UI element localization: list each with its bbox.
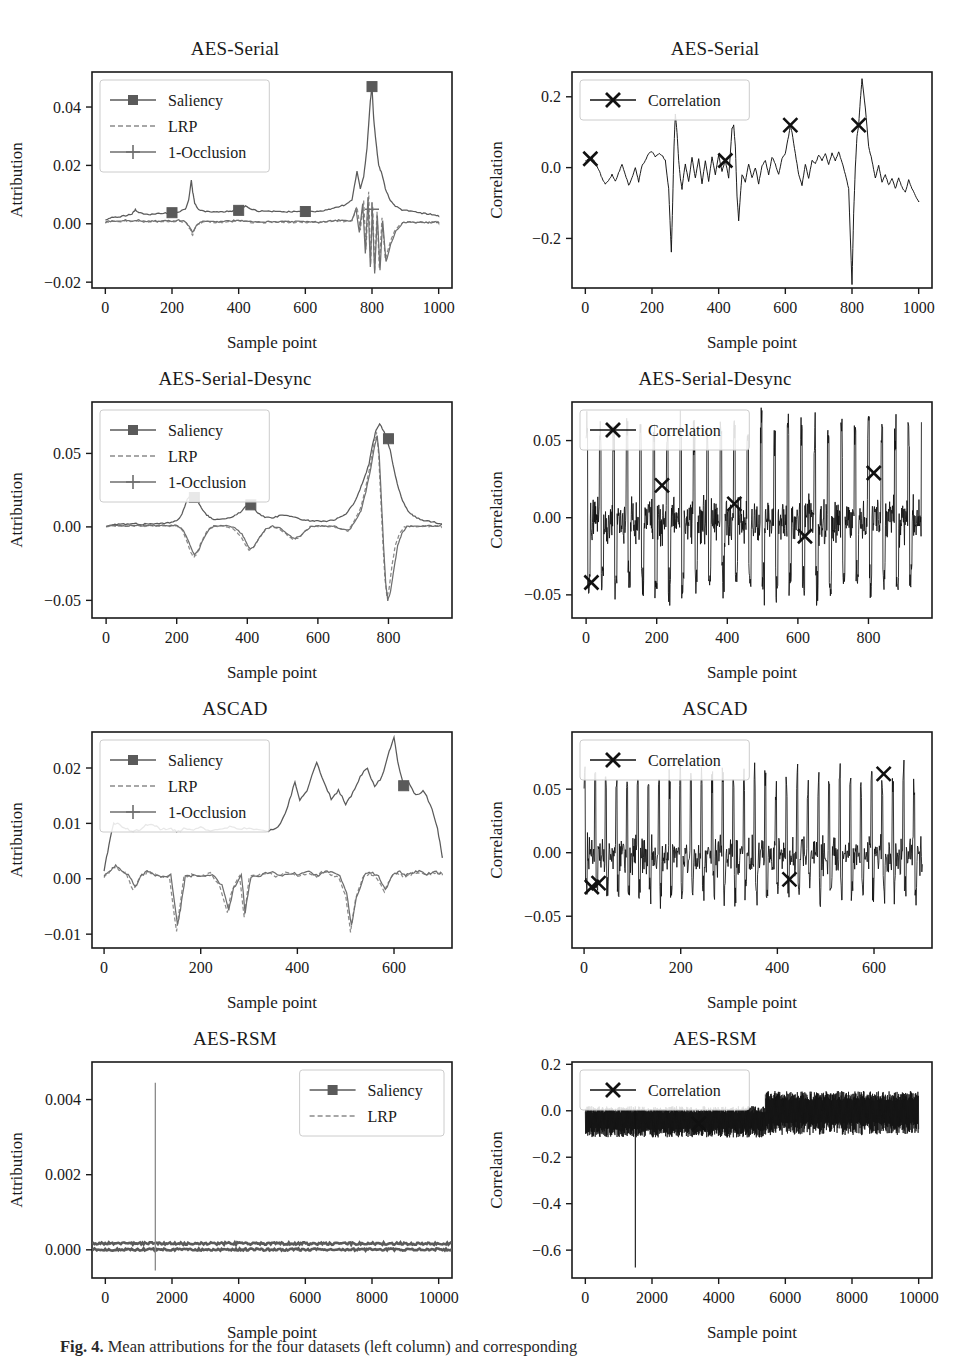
y-tick-label: −0.2 [532, 1149, 561, 1166]
caption-text: Mean attributions for the four datasets … [108, 1337, 578, 1356]
marker-square [167, 208, 177, 218]
x-tick-label: 10000 [899, 1289, 939, 1306]
legend-label: LRP [168, 448, 197, 465]
caption-label: Fig. 4. [60, 1337, 104, 1356]
legend-label: Correlation [648, 1082, 721, 1099]
y-axis-label: Correlation [487, 471, 506, 549]
x-tick-label: 8000 [356, 1289, 388, 1306]
x-tick-label: 800 [360, 299, 384, 316]
panel-title: ASCAD [480, 698, 950, 720]
x-tick-label: 0 [582, 629, 590, 646]
y-axis-label: Correlation [487, 801, 506, 879]
y-tick-label: −0.2 [532, 230, 561, 247]
legend-label: Saliency [368, 1082, 423, 1100]
y-tick-label: −0.4 [532, 1195, 561, 1212]
y-tick-label: −0.05 [524, 908, 561, 925]
x-tick-label: 400 [235, 629, 259, 646]
x-axis-label: Sample point [707, 663, 797, 682]
x-axis-label: Sample point [227, 663, 317, 682]
x-tick-label: 0 [581, 1289, 589, 1306]
panel-title: AES-Serial-Desync [480, 368, 950, 390]
panel-title: AES-RSM [0, 1028, 470, 1050]
legend: Correlation [580, 80, 749, 120]
marker-square [399, 781, 409, 791]
legend-label: LRP [368, 1108, 397, 1125]
x-tick-label: 8000 [836, 1289, 868, 1306]
panel-title: AES-Serial-Desync [0, 368, 470, 390]
legend: SaliencyLRP1-Occlusion [100, 740, 269, 832]
panel-title: AES-Serial [480, 38, 950, 60]
legend-label: LRP [168, 778, 197, 795]
plot-svg: 0200400600800−0.050.000.05Sample pointCo… [480, 362, 950, 692]
legend: SaliencyLRP1-Occlusion [100, 80, 269, 172]
figure-caption: Fig. 4. Mean attributions for the four d… [60, 1336, 894, 1364]
y-tick-label: 0.00 [53, 518, 81, 535]
x-tick-label: 400 [765, 959, 789, 976]
x-tick-label: 0 [101, 1289, 109, 1306]
plot-grid: AES-Serial02004006008001000−0.020.000.02… [0, 0, 953, 1352]
series-saliency-lower [92, 1248, 452, 1250]
plot-svg: 02004006008001000−0.020.000.020.04Sample… [0, 32, 470, 362]
legend: Correlation [580, 740, 749, 780]
marker-square [383, 434, 393, 444]
y-tick-label: 0.0 [541, 1102, 561, 1119]
plot-panel-aes-rsm-correlation: AES-RSM0200040006000800010000−0.6−0.4−0.… [480, 1022, 950, 1352]
y-tick-label: 0.2 [541, 1056, 561, 1073]
x-tick-label: 800 [840, 299, 864, 316]
x-axis-label: Sample point [227, 333, 317, 352]
x-tick-label: 0 [580, 959, 588, 976]
x-tick-label: 2000 [636, 1289, 668, 1306]
y-tick-label: −0.6 [532, 1242, 561, 1259]
legend-marker-square [128, 755, 138, 765]
plot-svg: 0200400600−0.010.000.010.02Sample pointA… [0, 692, 470, 1022]
y-tick-label: −0.01 [44, 926, 81, 943]
x-tick-label: 0 [102, 629, 110, 646]
y-tick-label: 0.05 [533, 432, 561, 449]
x-tick-label: 600 [773, 299, 797, 316]
y-tick-label: 0.0 [541, 159, 561, 176]
marker-square [300, 207, 310, 217]
y-axis-label: Attribution [7, 142, 26, 218]
legend-marker-square [328, 1085, 338, 1095]
x-tick-label: 200 [645, 629, 669, 646]
x-tick-label: 800 [856, 629, 880, 646]
y-tick-label: 0.05 [533, 781, 561, 798]
x-tick-label: 2000 [156, 1289, 188, 1306]
x-axis-label: Sample point [707, 993, 797, 1012]
x-tick-label: 200 [165, 629, 189, 646]
y-tick-label: −0.05 [524, 586, 561, 603]
x-tick-label: 600 [293, 299, 317, 316]
x-tick-label: 4000 [703, 1289, 735, 1306]
legend: SaliencyLRP [300, 1070, 444, 1136]
y-tick-label: 0.004 [45, 1091, 81, 1108]
y-axis-label: Attribution [7, 802, 26, 878]
marker-square [367, 82, 377, 92]
plot-panel-aes-rsm-attribution: AES-RSM02000400060008000100000.0000.0020… [0, 1022, 470, 1352]
x-tick-label: 1000 [423, 299, 455, 316]
y-tick-label: 0.02 [53, 760, 81, 777]
plot-panel-aes-serial-desync-attribution: AES-Serial-Desync0200400600800−0.050.000… [0, 362, 470, 692]
plot-panel-aes-serial-desync-correlation: AES-Serial-Desync0200400600800−0.050.000… [480, 362, 950, 692]
legend-label: 1-Occlusion [168, 474, 246, 491]
legend-label: Correlation [648, 752, 721, 769]
plot-panel-aes-serial-attribution: AES-Serial02004006008001000−0.020.000.02… [0, 32, 470, 362]
marker-square [234, 205, 244, 215]
panel-title: AES-RSM [480, 1028, 950, 1050]
y-axis-label: Correlation [487, 141, 506, 219]
legend-box [300, 1070, 444, 1136]
plot-svg: 0200400600−0.050.000.05Sample pointCorre… [480, 692, 950, 1022]
x-tick-label: 400 [227, 299, 251, 316]
plot-svg: 02004006008001000−0.20.00.2Sample pointC… [480, 32, 950, 362]
y-axis-label: Attribution [7, 472, 26, 548]
y-tick-label: 0.002 [45, 1166, 81, 1183]
x-tick-label: 0 [581, 299, 589, 316]
x-tick-label: 400 [707, 299, 731, 316]
x-tick-label: 600 [786, 629, 810, 646]
y-tick-label: 0.01 [53, 815, 81, 832]
x-axis-label: Sample point [227, 993, 317, 1012]
y-tick-label: −0.02 [44, 274, 81, 291]
x-tick-label: 0 [101, 299, 109, 316]
legend: SaliencyLRP1-Occlusion [100, 410, 269, 502]
legend-label: Saliency [168, 92, 223, 110]
x-tick-label: 600 [862, 959, 886, 976]
